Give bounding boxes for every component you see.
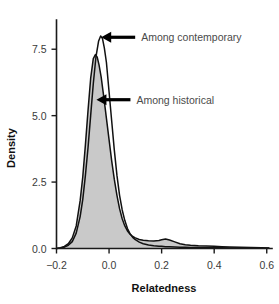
curve-fill-group <box>57 55 270 249</box>
annotation-group: Among contemporaryAmong historical <box>96 31 242 105</box>
y-tick-label-3: 7.5 <box>32 43 47 55</box>
x-axis-title: Relatedness <box>132 282 197 294</box>
chart-canvas: −0.20.00.20.40.6 0.02.55.07.5 Relatednes… <box>0 0 279 304</box>
x-tick-label-2: 0.2 <box>154 259 169 271</box>
annotation-label-1: Among historical <box>136 94 214 106</box>
x-axis-ticks: −0.20.00.20.40.6 <box>46 249 274 271</box>
y-axis-title: Density <box>5 127 17 168</box>
series-fill-0 <box>57 55 270 249</box>
density-chart: −0.20.00.20.40.6 0.02.55.07.5 Relatednes… <box>0 0 279 304</box>
x-tick-label-4: 0.6 <box>259 259 274 271</box>
x-tick-label-3: 0.4 <box>207 259 222 271</box>
y-tick-label-2: 5.0 <box>32 110 47 122</box>
annotation-label-0: Among contemporary <box>141 31 242 43</box>
y-axis-ticks: 0.02.55.07.5 <box>32 43 57 254</box>
y-tick-label-0: 0.0 <box>32 243 47 255</box>
x-tick-label-0: −0.2 <box>46 259 67 271</box>
y-tick-label-1: 2.5 <box>32 176 47 188</box>
x-tick-label-1: 0.0 <box>102 259 117 271</box>
